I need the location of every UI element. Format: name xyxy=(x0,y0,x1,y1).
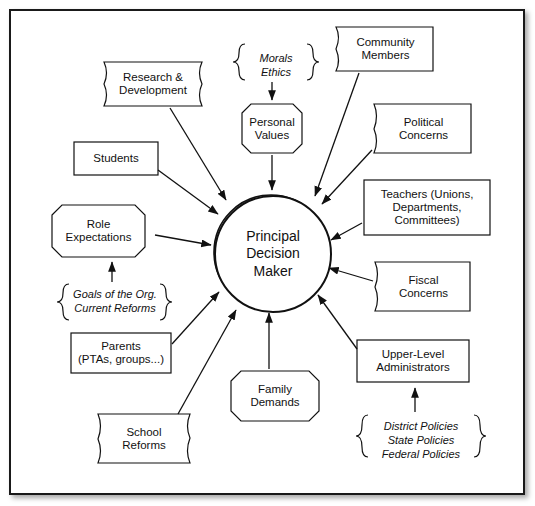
diagram-canvas: Principal Decision Maker Morals Ethics C… xyxy=(0,0,535,506)
node-school-reforms: School Reforms xyxy=(98,414,190,463)
fiscal-concerns-line-1: Fiscal xyxy=(408,274,438,287)
goals-of-org-label: Goals of the Org. xyxy=(73,288,157,302)
federal-policies-label: Federal Policies xyxy=(382,448,460,462)
school-reforms-line-1: School xyxy=(126,426,161,439)
family-demands-line-1: Family xyxy=(258,383,292,396)
personal-values-line-1: Personal xyxy=(249,116,294,129)
district-policies-label: District Policies xyxy=(384,420,459,434)
node-fiscal-concerns: Fiscal Concerns xyxy=(377,262,470,311)
research-development-line-1: Research & xyxy=(123,71,183,84)
research-development-line-2: Development xyxy=(119,84,187,97)
node-political-concerns: Political Concerns xyxy=(376,104,471,153)
role-expectations-line-2: Expectations xyxy=(66,231,132,244)
role-expectations-line-1: Role xyxy=(87,218,111,231)
parents-line-1: Parents xyxy=(101,340,141,353)
teachers-line-2: Departments, xyxy=(392,201,461,214)
political-concerns-line-1: Political xyxy=(404,116,444,129)
node-morals-ethics: Morals Ethics xyxy=(243,44,309,88)
center-line-2: Decision xyxy=(246,245,300,263)
node-parents: Parents (PTAs, groups...) xyxy=(71,333,171,373)
teachers-line-3: Committees) xyxy=(394,214,459,227)
political-concerns-line-2: Concerns xyxy=(399,129,448,142)
node-role-expectations: Role Expectations xyxy=(52,205,145,257)
center-line-1: Principal xyxy=(246,228,300,246)
node-students: Students xyxy=(74,142,158,175)
node-personal-values: Personal Values xyxy=(242,104,302,153)
node-policies: District Policies State Policies Federal… xyxy=(366,415,476,467)
node-upper-level-administrators: Upper-Level Administrators xyxy=(357,340,469,382)
fiscal-concerns-line-2: Concerns xyxy=(399,287,448,300)
family-demands-line-2: Demands xyxy=(250,396,299,409)
ethics-label: Ethics xyxy=(261,66,291,80)
center-line-3: Maker xyxy=(254,263,293,281)
node-teachers: Teachers (Unions, Departments, Committee… xyxy=(364,180,490,235)
upper-level-admins-line-1: Upper-Level xyxy=(382,348,445,361)
personal-values-line-2: Values xyxy=(255,129,289,142)
morals-label: Morals xyxy=(259,52,292,66)
school-reforms-line-2: Reforms xyxy=(122,439,165,452)
node-goals-reforms: Goals of the Org. Current Reforms xyxy=(66,284,164,320)
parents-line-2: (PTAs, groups...) xyxy=(78,353,164,366)
community-members-line-2: Members xyxy=(362,49,410,62)
node-family-demands: Family Demands xyxy=(231,371,319,421)
community-members-line-1: Community xyxy=(356,36,414,49)
node-community-members: Community Members xyxy=(338,27,433,71)
upper-level-admins-line-2: Administrators xyxy=(376,361,450,374)
current-reforms-label: Current Reforms xyxy=(74,302,155,316)
students-label: Students xyxy=(93,152,138,165)
node-research-development: Research & Development xyxy=(104,62,202,106)
teachers-line-1: Teachers (Unions, xyxy=(381,188,474,201)
state-policies-label: State Policies xyxy=(388,434,455,448)
node-principal-decision-maker: Principal Decision Maker xyxy=(214,195,332,313)
